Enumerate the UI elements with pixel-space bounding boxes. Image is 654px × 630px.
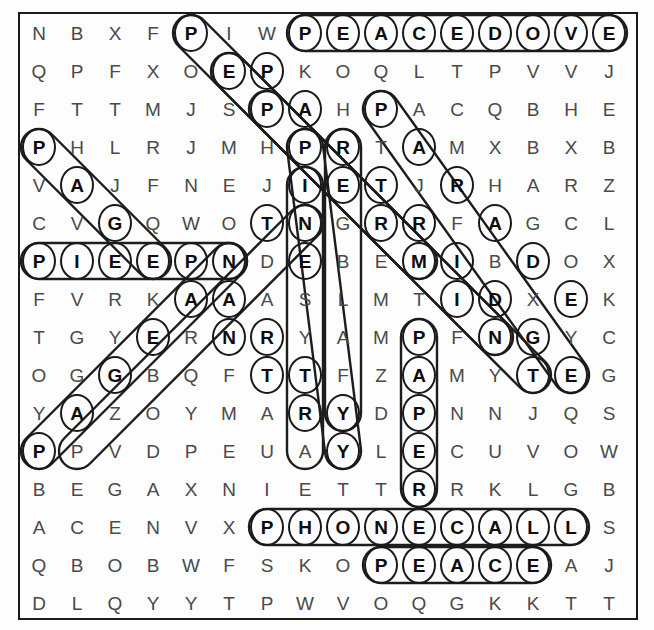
grid-cell-circled[interactable]: E [210,52,248,90]
grid-cell-circled[interactable]: V [552,14,590,52]
grid-cell-circled[interactable]: A [476,204,514,242]
grid-cell-circled[interactable]: A [400,128,438,166]
grid-cell-circled[interactable]: P [172,14,210,52]
grid-cell-circled[interactable]: P [172,242,210,280]
grid-cell-circled[interactable]: I [286,166,324,204]
grid-cell[interactable]: J [172,128,210,166]
grid-cell[interactable]: E [362,242,400,280]
grid-cell[interactable]: L [514,470,552,508]
grid-cell[interactable]: T [20,318,58,356]
grid-cell[interactable]: O [172,52,210,90]
grid-cell[interactable]: U [248,432,286,470]
grid-cell-circled[interactable]: E [134,242,172,280]
grid-cell[interactable]: L [96,128,134,166]
grid-cell-circled[interactable]: R [324,128,362,166]
grid-cell[interactable]: A [286,432,324,470]
grid-cell-circled[interactable]: E [324,14,362,52]
grid-cell-circled[interactable]: P [20,128,58,166]
grid-cell-circled[interactable]: A [210,280,248,318]
grid-cell[interactable]: V [58,204,96,242]
grid-cell[interactable]: P [248,584,286,622]
grid-cell[interactable]: R [134,128,172,166]
grid-cell[interactable]: W [590,432,628,470]
grid-cell[interactable]: A [20,508,58,546]
grid-cell[interactable]: I [210,14,248,52]
grid-cell[interactable]: O [134,394,172,432]
grid-cell[interactable]: O [362,584,400,622]
grid-cell-circled[interactable]: P [248,508,286,546]
grid-cell[interactable]: Y [20,394,58,432]
grid-cell[interactable]: P [58,432,96,470]
grid-cell[interactable]: J [590,52,628,90]
grid-cell[interactable]: K [476,584,514,622]
grid-cell-circled[interactable]: A [438,546,476,584]
grid-cell-circled[interactable]: A [172,280,210,318]
grid-cell[interactable]: X [172,470,210,508]
grid-cell[interactable]: M [210,128,248,166]
grid-cell[interactable]: G [58,318,96,356]
grid-cell[interactable]: S [248,546,286,584]
grid-cell-circled[interactable]: I [438,280,476,318]
grid-cell[interactable]: T [362,470,400,508]
grid-cell-circled[interactable]: P [400,394,438,432]
grid-cell[interactable]: Q [362,52,400,90]
grid-cell[interactable]: C [58,508,96,546]
grid-cell[interactable]: Q [400,584,438,622]
grid-cell[interactable]: T [210,584,248,622]
grid-cell-circled[interactable]: E [134,318,172,356]
grid-cell[interactable]: V [58,280,96,318]
grid-cell[interactable]: F [438,318,476,356]
grid-cell[interactable]: G [96,470,134,508]
grid-cell[interactable]: B [590,128,628,166]
grid-cell[interactable]: F [210,356,248,394]
grid-cell-circled[interactable]: O [324,508,362,546]
grid-cell[interactable]: H [58,128,96,166]
grid-cell-circled[interactable]: N [210,318,248,356]
grid-cell-circled[interactable]: P [286,14,324,52]
grid-cell[interactable]: G [552,470,590,508]
grid-cell[interactable]: D [20,584,58,622]
grid-cell-circled[interactable]: P [362,546,400,584]
grid-cell[interactable]: J [400,166,438,204]
grid-cell[interactable]: I [248,470,286,508]
grid-cell[interactable]: S [210,90,248,128]
grid-cell[interactable]: W [286,584,324,622]
grid-cell[interactable]: L [400,52,438,90]
grid-cell[interactable]: N [172,166,210,204]
grid-cell-circled[interactable]: C [400,14,438,52]
grid-cell-circled[interactable]: E [286,242,324,280]
grid-cell-circled[interactable]: N [476,318,514,356]
grid-cell-circled[interactable]: H [286,508,324,546]
grid-cell[interactable]: X [476,128,514,166]
grid-cell-circled[interactable]: Y [324,394,362,432]
grid-cell-circled[interactable]: D [514,242,552,280]
grid-cell-circled[interactable]: T [248,204,286,242]
grid-cell[interactable]: H [324,90,362,128]
grid-cell-circled[interactable]: P [20,432,58,470]
grid-cell-circled[interactable]: R [438,166,476,204]
grid-cell-circled[interactable]: T [362,166,400,204]
grid-cell[interactable]: Q [476,90,514,128]
grid-cell[interactable]: Q [134,204,172,242]
grid-cell-circled[interactable]: P [248,52,286,90]
grid-cell[interactable]: H [552,90,590,128]
grid-cell[interactable]: P [476,52,514,90]
grid-cell[interactable]: F [324,356,362,394]
grid-cell[interactable]: T [58,90,96,128]
grid-cell[interactable]: T [400,280,438,318]
grid-cell[interactable]: F [438,204,476,242]
grid-cell[interactable]: W [172,204,210,242]
grid-cell[interactable]: R [96,280,134,318]
grid-cell[interactable]: T [590,584,628,622]
grid-cell[interactable]: N [210,470,248,508]
grid-cell[interactable]: O [552,242,590,280]
grid-cell-circled[interactable]: A [58,394,96,432]
grid-cell-circled[interactable]: R [362,204,400,242]
grid-cell[interactable]: F [134,14,172,52]
grid-cell-circled[interactable]: A [286,90,324,128]
grid-cell[interactable]: F [20,90,58,128]
grid-cell-circled[interactable]: N [362,508,400,546]
grid-cell-circled[interactable]: L [514,508,552,546]
grid-cell[interactable]: V [172,508,210,546]
grid-cell-circled[interactable]: L [552,508,590,546]
